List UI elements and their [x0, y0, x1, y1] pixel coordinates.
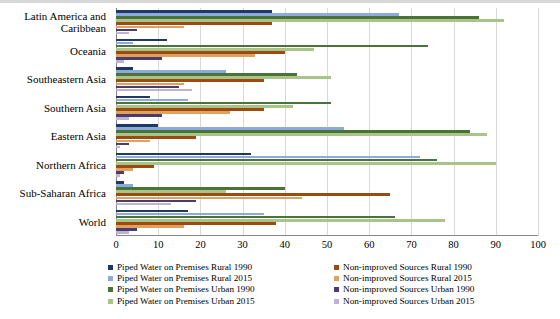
- category-group: [116, 94, 538, 123]
- legend-label: Non-improved Sources Rural 1990: [343, 262, 472, 273]
- x-tick-label: 30: [228, 238, 258, 252]
- legend-item[interactable]: Non-improved Sources Urban 1990: [334, 284, 548, 295]
- bar: [116, 32, 129, 35]
- legend-label: Piped Water on Premises Urban 2015: [117, 296, 255, 307]
- x-tick-label: 70: [396, 238, 426, 252]
- legend-swatch-icon: [334, 299, 339, 304]
- x-tick-label: 0: [101, 238, 131, 252]
- x-tick-label: 100: [523, 238, 553, 252]
- category-group: [116, 208, 538, 237]
- bar: [116, 162, 496, 165]
- legend-swatch-icon: [108, 276, 113, 281]
- legend-swatch-icon: [108, 299, 113, 304]
- legend-swatch-icon: [108, 287, 113, 292]
- legend-item[interactable]: Non-improved Sources Urban 2015: [334, 296, 548, 307]
- category-group: [116, 179, 538, 208]
- legend-item[interactable]: Non-improved Sources Rural 1990: [334, 262, 548, 273]
- bar: [116, 203, 171, 206]
- category-group: [116, 37, 538, 66]
- chart-legend: Piped Water on Premises Rural 1990Non-im…: [108, 262, 554, 307]
- category-group: [116, 65, 538, 94]
- category-group: [116, 122, 538, 151]
- legend-item[interactable]: Piped Water on Premises Urban 2015: [108, 296, 320, 307]
- x-tick-label: 10: [143, 238, 173, 252]
- y-tick-label: World: [0, 216, 106, 228]
- category-group: [116, 8, 538, 37]
- legend-label: Piped Water on Premises Urban 1990: [117, 284, 255, 295]
- x-tick-label: 40: [270, 238, 300, 252]
- bar-chart: Latin America and CaribbeanOceaniaSouthe…: [0, 0, 560, 319]
- top-divider: [0, 0, 560, 3]
- legend-swatch-icon: [334, 287, 339, 292]
- gridline: [538, 8, 539, 236]
- y-axis-labels: Latin America and CaribbeanOceaniaSouthe…: [0, 8, 112, 236]
- bar: [116, 117, 129, 120]
- y-tick-label: Eastern Asia: [0, 130, 106, 142]
- legend-label: Piped Water on Premises Rural 2015: [117, 273, 252, 284]
- bar: [116, 146, 120, 149]
- y-tick-label: Southeastern Asia: [0, 73, 106, 85]
- y-tick-label: Latin America and Caribbean: [0, 10, 106, 34]
- x-tick-label: 80: [439, 238, 469, 252]
- bar: [116, 89, 192, 92]
- y-tick-label: Oceania: [0, 45, 106, 57]
- legend-label: Piped Water on Premises Rural 1990: [117, 262, 252, 273]
- x-tick-label: 90: [481, 238, 511, 252]
- legend-swatch-icon: [334, 276, 339, 281]
- x-tick-label: 60: [354, 238, 384, 252]
- x-tick-label: 50: [312, 238, 342, 252]
- x-tick-label: 20: [185, 238, 215, 252]
- plot-area: [116, 8, 538, 236]
- legend-item[interactable]: Piped Water on Premises Urban 1990: [108, 284, 320, 295]
- legend-label: Non-improved Sources Urban 1990: [343, 284, 474, 295]
- y-tick-label: Northern Africa: [0, 159, 106, 171]
- legend-item[interactable]: Non-improved Sources Rural 2015: [334, 273, 548, 284]
- legend-swatch-icon: [334, 265, 339, 270]
- legend-swatch-icon: [108, 265, 113, 270]
- legend-label: Non-improved Sources Rural 2015: [343, 273, 472, 284]
- legend-item[interactable]: Piped Water on Premises Rural 2015: [108, 273, 320, 284]
- bar: [116, 174, 120, 177]
- legend-item[interactable]: Piped Water on Premises Rural 1990: [108, 262, 320, 273]
- category-group: [116, 151, 538, 180]
- legend-label: Non-improved Sources Urban 2015: [343, 296, 474, 307]
- x-axis-labels: 0102030405060708090100: [0, 238, 560, 254]
- bar: [116, 60, 124, 63]
- y-tick-label: Sub-Saharan Africa: [0, 187, 106, 199]
- y-tick-label: Southern Asia: [0, 102, 106, 114]
- bar: [116, 231, 129, 234]
